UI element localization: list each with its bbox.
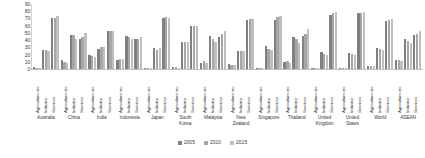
bar[interactable] — [159, 48, 161, 69]
category-axis-label: ASEAN — [394, 115, 422, 135]
sector-bar-group — [51, 4, 59, 69]
category-axis-label: World — [366, 115, 394, 135]
sector-axis-label: Services — [275, 71, 279, 113]
bar[interactable] — [233, 65, 235, 69]
bar[interactable] — [214, 42, 216, 69]
country-bar-group — [60, 4, 88, 69]
sector-label-group: Agriculture etcIndustryServices — [143, 71, 171, 113]
sector-label-group: Agriculture etcIndustryServices — [394, 71, 422, 113]
bar[interactable] — [363, 12, 365, 69]
sector-axis-label: Services — [358, 71, 362, 113]
bar[interactable] — [307, 29, 309, 69]
bar[interactable] — [289, 63, 291, 70]
category-axis-label: United Kingdom — [311, 115, 339, 135]
sector-axis-label: Industry — [406, 71, 410, 113]
bar[interactable] — [38, 68, 40, 69]
sector-axis-label: Agriculture etc — [314, 71, 318, 113]
category-axis-label: Indonesia — [116, 115, 144, 135]
bar[interactable] — [131, 39, 133, 69]
sector-bar-group — [88, 4, 96, 69]
bar[interactable] — [251, 19, 253, 69]
country-bar-group — [311, 4, 339, 69]
bar[interactable] — [84, 33, 86, 69]
bar[interactable] — [270, 50, 272, 69]
bar[interactable] — [400, 61, 402, 69]
legend-item[interactable]: 2015 — [230, 140, 247, 145]
bar[interactable] — [326, 55, 328, 69]
sector-bar-group — [116, 4, 124, 69]
sector-bar-group — [70, 4, 78, 69]
bar[interactable] — [242, 51, 244, 69]
sector-label-group: Agriculture etcIndustryServices — [60, 71, 88, 113]
y-axis-tick-label: 0 — [27, 67, 30, 72]
bar[interactable] — [261, 68, 263, 69]
sector-axis-label: Agriculture etc — [286, 71, 290, 113]
bar[interactable] — [122, 59, 124, 69]
sector-bar-group — [339, 4, 347, 69]
y-axis-tick-label: 60 — [25, 23, 30, 28]
bar[interactable] — [66, 63, 68, 70]
sector-label-group: Agriculture etcIndustryServices — [116, 71, 144, 113]
legend-item[interactable]: 2010 — [204, 140, 221, 145]
bar[interactable] — [205, 63, 207, 70]
sector-axis-label: Industry — [99, 71, 103, 113]
sector-label-group: Agriculture etcIndustryServices — [255, 71, 283, 113]
country-bar-group — [32, 4, 60, 69]
bar[interactable] — [150, 68, 152, 69]
sector-axis-label: Industry — [378, 71, 382, 113]
y-axis-tick-label: 70 — [25, 16, 30, 21]
sector-axis-label: Agriculture etc — [203, 71, 207, 113]
bar[interactable] — [419, 31, 421, 69]
sector-axis-label: Services — [163, 71, 167, 113]
sector-axis-label: Industry — [239, 71, 243, 113]
bar[interactable] — [373, 66, 375, 69]
bar[interactable] — [140, 37, 142, 70]
sector-bar-group — [376, 4, 384, 69]
bar-chart: 9080706050403020100 Agriculture etcIndus… — [0, 0, 425, 158]
y-axis: 9080706050403020100 — [14, 4, 30, 70]
bar[interactable] — [75, 39, 77, 69]
sector-axis-label: Services — [330, 71, 334, 113]
bar[interactable] — [354, 55, 356, 69]
bar[interactable] — [410, 43, 412, 69]
y-axis-tick-label: 50 — [25, 30, 30, 35]
sector-axis-label: Industry — [267, 71, 271, 113]
sector-bar-group — [107, 4, 115, 69]
legend-label: 2015 — [236, 140, 247, 145]
legend-item[interactable]: 2005 — [178, 140, 195, 145]
sector-bar-group — [274, 4, 282, 69]
bar[interactable] — [335, 12, 337, 69]
bar[interactable] — [317, 68, 319, 69]
bar[interactable] — [224, 31, 226, 69]
bar[interactable] — [56, 16, 58, 69]
category-axis-label: China — [60, 115, 88, 135]
sector-axis-label: Agriculture etc — [64, 71, 68, 113]
bar[interactable] — [178, 68, 180, 69]
y-axis-tick-label: 20 — [25, 52, 30, 57]
bar[interactable] — [382, 50, 384, 70]
sector-bar-group — [256, 4, 264, 69]
bar[interactable] — [168, 18, 170, 69]
bar[interactable] — [279, 16, 281, 69]
bar[interactable] — [345, 68, 347, 69]
bar[interactable] — [391, 19, 393, 69]
plot-area: 9080706050403020100 — [0, 4, 425, 70]
bar[interactable] — [298, 43, 300, 69]
sector-axis-label: Industry — [322, 71, 326, 113]
y-axis-tick-label: 40 — [25, 38, 30, 43]
sector-axis-label: Agriculture etc — [119, 71, 123, 113]
sector-label-group: Agriculture etcIndustryServices — [88, 71, 116, 113]
sector-axis-label: Industry — [211, 71, 215, 113]
sector-axis-label: Industry — [44, 71, 48, 113]
sector-bar-group — [413, 4, 421, 69]
country-bar-group — [199, 4, 227, 69]
bar[interactable] — [47, 51, 49, 69]
bar[interactable] — [103, 47, 105, 69]
bar[interactable] — [196, 26, 198, 69]
bar[interactable] — [94, 57, 96, 69]
sector-axis-label: Industry — [294, 71, 298, 113]
bar[interactable] — [112, 31, 114, 69]
bar[interactable] — [187, 42, 189, 69]
country-bar-group — [227, 4, 255, 69]
sector-axis-label: Services — [303, 71, 307, 113]
